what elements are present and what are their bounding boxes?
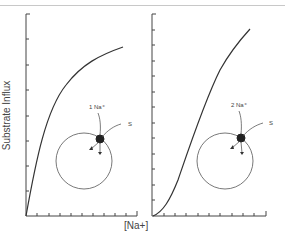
left-curve	[26, 47, 123, 216]
right-ion-label: 2 Na⁺	[231, 102, 247, 108]
left-panel	[26, 14, 137, 216]
figure-canvas: 1 Na⁺ S 2 Na⁺ S	[0, 0, 285, 240]
left-substrate-label: S	[128, 121, 132, 127]
left-ion-label: 1 Na⁺	[89, 104, 105, 110]
right-substrate-label: S	[269, 120, 273, 126]
right-panel	[152, 14, 266, 216]
y-axis-label: Substrate Influx	[1, 81, 12, 150]
x-axis-label: [Na+]	[124, 220, 148, 231]
right-curve	[153, 29, 250, 216]
